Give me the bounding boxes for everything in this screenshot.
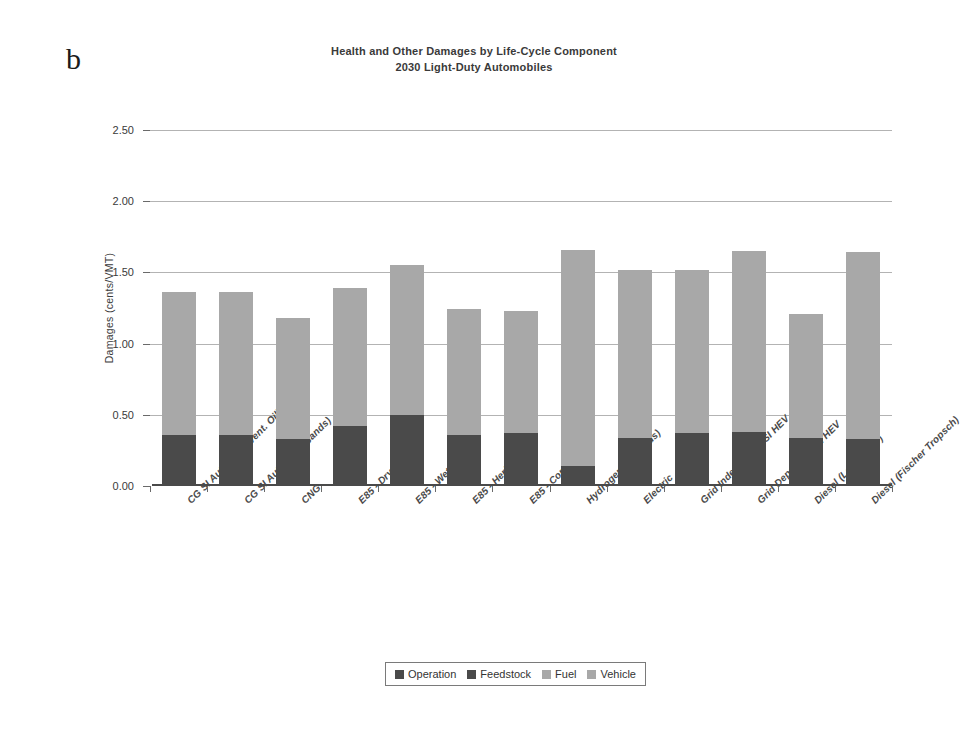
x-axis-tick-mark [321, 486, 322, 492]
bar-segment-operation[interactable] [846, 439, 880, 486]
y-axis-tick-label: 0.50 [74, 409, 134, 421]
bar-segment-vehicle[interactable] [561, 250, 595, 466]
y-axis-tick-mark [143, 415, 150, 416]
bar-stack[interactable] [789, 314, 823, 486]
bar-segment-operation[interactable] [618, 438, 652, 486]
bar-segment-vehicle[interactable] [219, 292, 253, 434]
bar-segment-operation[interactable] [504, 433, 538, 486]
bar-stack[interactable] [162, 292, 196, 486]
x-axis-tick-mark [835, 486, 836, 492]
x-axis-tick-mark [892, 486, 893, 492]
bar-stack[interactable] [276, 318, 310, 486]
x-axis-tick-mark [264, 486, 265, 492]
y-axis-tick-label: 2.50 [74, 124, 134, 136]
x-axis-tick-mark [207, 486, 208, 492]
bar-segment-operation[interactable] [561, 466, 595, 486]
legend-item-vehicle[interactable]: Vehicle [587, 668, 635, 680]
legend-label: Fuel [555, 668, 576, 680]
bar-segment-vehicle[interactable] [789, 314, 823, 438]
x-axis-tick-mark [721, 486, 722, 492]
legend-item-fuel[interactable]: Fuel [542, 668, 576, 680]
bar-segment-vehicle[interactable] [390, 265, 424, 415]
chart-title: Health and Other Damages by Life-Cycle C… [284, 44, 664, 76]
bar-segment-operation[interactable] [333, 426, 367, 486]
bar-segment-vehicle[interactable] [276, 318, 310, 439]
y-axis-tick-mark [143, 201, 150, 202]
x-axis-tick-mark [492, 486, 493, 492]
bar-segment-operation[interactable] [162, 435, 196, 486]
bar-stack[interactable] [504, 311, 538, 486]
x-axis-tick-mark [664, 486, 665, 492]
bar-segment-vehicle[interactable] [162, 292, 196, 434]
y-axis-tick-mark [143, 344, 150, 345]
x-axis-tick-mark [778, 486, 779, 492]
bar-stack[interactable] [447, 309, 481, 486]
legend-swatch-icon [467, 670, 476, 679]
plot-area: Damages (cents/VMT) 0.000.501.001.502.00… [150, 130, 892, 486]
chart-title-line2: 2030 Light-Duty Automobiles [284, 60, 664, 76]
legend-label: Feedstock [480, 668, 531, 680]
bar-segment-vehicle[interactable] [675, 270, 709, 434]
x-axis-tick-mark [150, 486, 151, 492]
bar-segment-operation[interactable] [447, 435, 481, 486]
x-axis-label: Diesel (Fischer Tropsch) [869, 414, 961, 506]
y-axis-tick-mark [143, 486, 150, 487]
gridline [150, 130, 892, 131]
bar-stack[interactable] [732, 251, 766, 486]
legend-label: Vehicle [600, 668, 635, 680]
y-axis-tick-label: 2.00 [74, 195, 134, 207]
y-axis-line [150, 130, 152, 486]
x-axis-tick-mark [435, 486, 436, 492]
chart-title-line1: Health and Other Damages by Life-Cycle C… [284, 44, 664, 60]
y-axis-tick-mark [143, 272, 150, 273]
bar-stack[interactable] [390, 265, 424, 486]
bar-stack[interactable] [846, 252, 880, 486]
panel-label: b [66, 42, 81, 76]
x-axis-tick-mark [550, 486, 551, 492]
legend-item-feedstock[interactable]: Feedstock [467, 668, 531, 680]
legend-swatch-icon [395, 670, 404, 679]
bar-stack[interactable] [219, 292, 253, 486]
bar-segment-vehicle[interactable] [447, 309, 481, 434]
bar-segment-operation[interactable] [789, 438, 823, 486]
bar-segment-operation[interactable] [390, 415, 424, 486]
legend-swatch-icon [542, 670, 551, 679]
x-axis-tick-mark [607, 486, 608, 492]
bar-segment-vehicle[interactable] [846, 252, 880, 439]
bar-segment-vehicle[interactable] [732, 251, 766, 432]
bar-segment-operation[interactable] [219, 435, 253, 486]
bar-segment-vehicle[interactable] [504, 311, 538, 433]
gridline [150, 272, 892, 273]
gridline [150, 201, 892, 202]
bar-stack[interactable] [333, 288, 367, 486]
bar-stack[interactable] [675, 270, 709, 486]
y-axis-tick-label: 1.50 [74, 266, 134, 278]
legend-item-operation[interactable]: Operation [395, 668, 456, 680]
bar-segment-vehicle[interactable] [333, 288, 367, 426]
bar-segment-operation[interactable] [276, 439, 310, 486]
y-axis-tick-label: 1.00 [74, 338, 134, 350]
y-axis-tick-label: 0.00 [74, 480, 134, 492]
chart-legend: OperationFeedstockFuelVehicle [385, 662, 646, 686]
bar-segment-operation[interactable] [675, 433, 709, 486]
y-axis-tick-mark [143, 130, 150, 131]
bar-segment-vehicle[interactable] [618, 270, 652, 438]
bar-stack[interactable] [618, 270, 652, 486]
bar-stack[interactable] [561, 250, 595, 486]
legend-swatch-icon [587, 670, 596, 679]
x-axis-tick-mark [378, 486, 379, 492]
bar-segment-operation[interactable] [732, 432, 766, 486]
legend-label: Operation [408, 668, 456, 680]
